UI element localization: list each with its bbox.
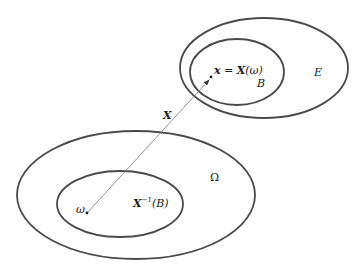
- set-E-ellipse: [180, 18, 348, 118]
- diagram-svg: [0, 0, 362, 275]
- label-E: E: [314, 67, 322, 78]
- label-omega-point: ω: [76, 204, 85, 215]
- label-x-point: x = X(ω): [214, 65, 263, 76]
- omega-point: [86, 212, 89, 215]
- label-mapping: X: [163, 110, 172, 121]
- label-omega-set: Ω: [210, 172, 219, 183]
- x-point: [210, 76, 213, 79]
- random-variable-mapping-diagram: E B Ω X−1(B) ω x = X(ω) X: [0, 0, 362, 275]
- label-B: B: [257, 78, 265, 89]
- label-preimage: X−1(B): [133, 197, 169, 209]
- set-omega-ellipse: [17, 131, 255, 259]
- mapping-arrow: [87, 80, 209, 213]
